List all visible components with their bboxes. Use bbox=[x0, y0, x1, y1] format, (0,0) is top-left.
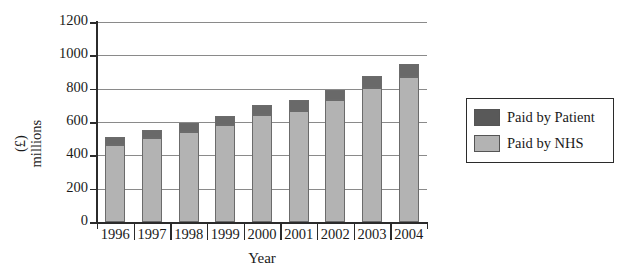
x-axis-label-separator bbox=[280, 229, 281, 240]
y-axis-tick-mark bbox=[90, 89, 97, 91]
bar-group[interactable] bbox=[325, 90, 345, 223]
x-axis-tick-label: 1996 bbox=[101, 226, 130, 243]
x-axis-tick-label: 2004 bbox=[394, 226, 423, 243]
y-axis-tick-mark bbox=[90, 55, 97, 57]
bar-segment-paid-by-nhs[interactable] bbox=[179, 132, 199, 222]
x-axis-tick-label: 2000 bbox=[248, 226, 277, 243]
legend-swatch-icon-patient bbox=[474, 109, 500, 126]
y-axis-tick-label: 1200 bbox=[28, 12, 88, 29]
y-axis-tick-label: 200 bbox=[28, 179, 88, 196]
legend-swatch-icon-nhs bbox=[474, 135, 500, 152]
bar-segment-paid-by-patient[interactable] bbox=[179, 123, 199, 132]
legend-label-paid-by-nhs: Paid by NHS bbox=[507, 135, 584, 152]
bar-group[interactable] bbox=[289, 100, 309, 222]
x-axis-tick-label: 2001 bbox=[284, 226, 313, 243]
bar-group[interactable] bbox=[179, 123, 199, 222]
y-axis-tick-mark bbox=[90, 189, 97, 191]
y-axis-tick-label: 400 bbox=[28, 145, 88, 162]
bar-segment-paid-by-nhs[interactable] bbox=[399, 77, 419, 222]
x-axis-tick-label: 1997 bbox=[138, 226, 167, 243]
bar-segment-paid-by-patient[interactable] bbox=[215, 116, 235, 125]
bar-segment-paid-by-patient[interactable] bbox=[399, 64, 419, 77]
y-axis-tick-label: 800 bbox=[28, 79, 88, 96]
bar-group[interactable] bbox=[142, 130, 162, 222]
x-axis-tick-label: 1998 bbox=[174, 226, 203, 243]
bar-segment-paid-by-nhs[interactable] bbox=[289, 111, 309, 222]
x-axis-label-separator bbox=[317, 229, 318, 240]
legend-item-paid-by-nhs[interactable]: Paid by NHS bbox=[474, 131, 606, 155]
y-axis-tick-labels: 020040060080010001200 bbox=[28, 22, 88, 222]
x-axis-label-separator bbox=[134, 229, 135, 240]
bar-segment-paid-by-patient[interactable] bbox=[142, 130, 162, 138]
y-axis-tick-label: 0 bbox=[28, 212, 88, 229]
y-axis-tick-mark bbox=[90, 122, 97, 124]
bar-segment-paid-by-nhs[interactable] bbox=[362, 88, 382, 222]
x-axis-tick-labels: 199619971998199920002001200220032004 bbox=[97, 226, 427, 248]
x-axis-title: Year bbox=[97, 250, 427, 267]
bar-group[interactable] bbox=[215, 116, 235, 222]
bar-segment-paid-by-patient[interactable] bbox=[289, 100, 309, 111]
bar-group[interactable] bbox=[252, 105, 272, 223]
bar-segment-paid-by-patient[interactable] bbox=[252, 105, 272, 115]
bar-series-container bbox=[97, 22, 427, 222]
bar-segment-paid-by-patient[interactable] bbox=[325, 90, 345, 101]
legend-item-paid-by-patient[interactable]: Paid by Patient bbox=[474, 105, 606, 129]
x-axis-label-separator bbox=[170, 229, 171, 240]
bar-segment-paid-by-nhs[interactable] bbox=[252, 115, 272, 223]
bar-segment-paid-by-nhs[interactable] bbox=[325, 100, 345, 222]
bar-segment-paid-by-nhs[interactable] bbox=[215, 125, 235, 222]
x-axis-label-separator bbox=[354, 229, 355, 240]
bar-group[interactable] bbox=[105, 137, 125, 222]
y-axis-tick-mark bbox=[90, 155, 97, 157]
chart-legend: Paid by Patient Paid by NHS bbox=[466, 98, 614, 163]
stacked-bar-chart-figure: (£) millions 020040060080010001200 19961… bbox=[0, 0, 626, 279]
bar-segment-paid-by-nhs[interactable] bbox=[142, 138, 162, 222]
x-axis-tick-label: 2003 bbox=[358, 226, 387, 243]
bar-segment-paid-by-nhs[interactable] bbox=[105, 145, 125, 223]
legend-label-paid-by-patient: Paid by Patient bbox=[507, 109, 595, 126]
bar-segment-paid-by-patient[interactable] bbox=[362, 76, 382, 88]
y-axis-tick-mark bbox=[90, 222, 97, 224]
y-axis-tick-label: 1000 bbox=[28, 45, 88, 62]
bar-segment-paid-by-patient[interactable] bbox=[105, 137, 125, 145]
x-axis-tick-mark bbox=[427, 222, 428, 229]
bar-group[interactable] bbox=[399, 64, 419, 222]
x-axis-label-separator bbox=[390, 229, 391, 240]
x-axis-tick-label: 1999 bbox=[211, 226, 240, 243]
y-axis-title-line1: (£) bbox=[13, 120, 29, 168]
y-axis-tick-label: 600 bbox=[28, 112, 88, 129]
bar-group[interactable] bbox=[362, 76, 382, 222]
x-axis-label-separator bbox=[207, 229, 208, 240]
x-axis-label-separator bbox=[244, 229, 245, 240]
x-axis-tick-label: 2002 bbox=[321, 226, 350, 243]
plot-area bbox=[97, 22, 427, 222]
y-axis-tick-mark bbox=[90, 22, 97, 24]
